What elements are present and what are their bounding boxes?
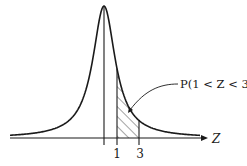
annotation-leader-line bbox=[130, 84, 178, 110]
tick-label-3: 3 bbox=[136, 147, 144, 161]
probability-annotation: P(1 < Z < 3) bbox=[180, 77, 247, 91]
axis-arrow-icon bbox=[201, 135, 208, 141]
normal-curve bbox=[10, 6, 200, 135]
axis-label-z: Z bbox=[211, 132, 221, 146]
normal-curve-diagram: 1 3 Z P(1 < Z < 3) bbox=[0, 0, 247, 166]
tick-label-1: 1 bbox=[113, 147, 121, 161]
